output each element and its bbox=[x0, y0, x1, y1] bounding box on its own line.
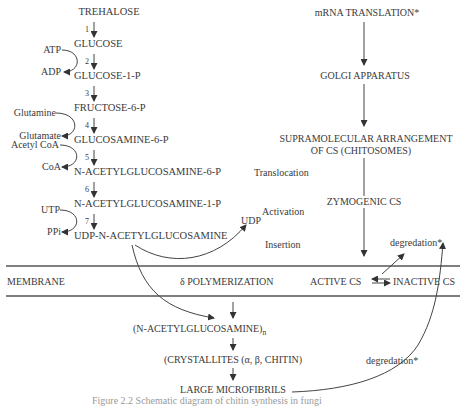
cofactor-adp: ADP bbox=[41, 66, 61, 78]
step-number-3: 3 bbox=[85, 88, 89, 100]
golgi-apparatus-label: GOLGI APPARATUS bbox=[320, 70, 409, 82]
polymerization-label: δ POLYMERIZATION bbox=[180, 276, 273, 288]
step-number-1: 1 bbox=[85, 24, 89, 36]
polymer-subscript: n bbox=[262, 328, 266, 337]
degradation-label-top: degredation* bbox=[390, 237, 442, 249]
cofactor-glutamine: Glutamine bbox=[14, 107, 56, 119]
cofactor-coa: CoA bbox=[42, 161, 61, 173]
compound-glucose: GLUCOSE bbox=[74, 38, 122, 50]
compound-glucosamine-6-p: GLUCOSAMINE-6-P bbox=[74, 134, 169, 146]
step-number-2: 2 bbox=[85, 56, 89, 68]
compound-n-acetylglucosamine-6-p: N-ACETYLGLUCOSAMINE-6-P bbox=[74, 166, 221, 178]
crystallites-label: (CRYSTALLITES (α, β, CHITIN) bbox=[164, 354, 302, 366]
acetylcoa-coa-curve bbox=[60, 145, 77, 167]
compound-fructose-6-p: FRUCTOSE-6-P bbox=[74, 102, 146, 114]
figure-caption: Figure 2.2 Schematic diagram of chitin s… bbox=[92, 395, 322, 407]
polymer-text: (N-ACETYLGLUCOSAMINE) bbox=[133, 323, 262, 334]
cofactor-acetyl-coa: Acetyl CoA bbox=[11, 139, 59, 151]
compound-trehalose: TREHALOSE bbox=[78, 6, 139, 18]
membrane-label: MEMBRANE bbox=[7, 276, 65, 288]
step-number-7: 7 bbox=[85, 216, 89, 228]
compound-udp-n-acetylglucosamine: UDP-N-ACETYLGLUCOSAMINE bbox=[74, 230, 227, 242]
translocation-label: Translocation bbox=[254, 167, 309, 179]
cofactor-ppi: PPi bbox=[47, 226, 61, 238]
degradation-label-bottom: degredation* bbox=[366, 355, 418, 367]
compound-glucose-1-p: GLUCOSE-1-P bbox=[74, 70, 141, 82]
compound-n-acetylglucosamine-1-p: N-ACETYLGLUCOSAMINE-1-P bbox=[74, 198, 221, 210]
inactive-cs-label: INACTIVE CS bbox=[393, 276, 455, 288]
active-cs-label: ACTIVE CS bbox=[310, 276, 361, 288]
activation-label: Activation bbox=[262, 206, 304, 218]
mrna-translation-label: mRNA TRANSLATION* bbox=[315, 7, 420, 19]
zymogenic-cs-label: ZYMOGENIC CS bbox=[327, 196, 402, 208]
utp-ppi-curve bbox=[60, 210, 77, 232]
arrow-active-degradation bbox=[382, 254, 404, 274]
chitosomes-label: OF CS (CHITOSOMES) bbox=[311, 145, 411, 157]
step-number-4: 4 bbox=[85, 120, 89, 132]
insertion-label: Insertion bbox=[265, 239, 301, 251]
cofactor-utp: UTP bbox=[41, 204, 60, 216]
step-number-6: 6 bbox=[85, 184, 89, 196]
cofactor-atp: ATP bbox=[43, 44, 61, 56]
step-number-5: 5 bbox=[85, 152, 89, 164]
polymer-label: (N-ACETYLGLUCOSAMINE)n bbox=[133, 323, 266, 339]
atp-adp-curve bbox=[62, 50, 77, 72]
udp-label: UDP bbox=[241, 215, 261, 227]
supramolecular-arrangement-label: SUPRAMOLECULAR ARRANGEMENT bbox=[279, 133, 452, 145]
